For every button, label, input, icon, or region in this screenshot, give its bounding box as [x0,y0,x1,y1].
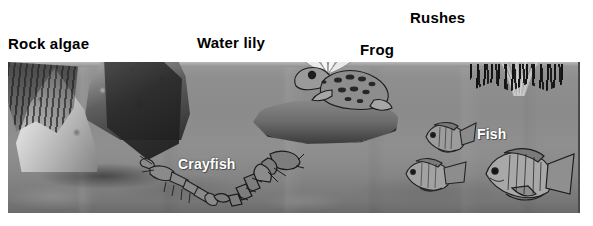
pond-ecosystem-figure: Rock algae Water lily Frog Rushes Crayfi… [0,0,593,226]
label-rushes: Rushes [410,10,465,25]
fish-icon-small-upper [416,117,478,157]
label-fish: Fish [477,127,507,141]
label-crayfish: Crayfish [178,157,236,171]
fish-icon-large [478,144,576,206]
label-frog: Frog [360,42,394,57]
label-water-lily: Water lily [197,35,265,50]
frog-icon [286,62,398,114]
label-rock-algae: Rock algae [8,36,89,51]
fish-icon-small-lower [400,154,468,196]
